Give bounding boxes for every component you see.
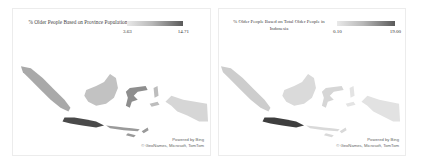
region-nusa-tenggara[interactable] bbox=[106, 125, 149, 137]
color-scale-legend: 3.63 14.71 bbox=[127, 21, 183, 37]
region-sumatra[interactable] bbox=[221, 66, 270, 111]
region-sulawesi[interactable] bbox=[126, 86, 148, 108]
color-scale-legend: 0.10 19.00 bbox=[337, 21, 395, 37]
region-java[interactable] bbox=[263, 118, 305, 128]
map-panel-province-population[interactable]: % Older People Based on Province Populat… bbox=[12, 8, 211, 156]
legend-gradient-bar bbox=[127, 21, 183, 26]
region-nusa-tenggara[interactable] bbox=[306, 125, 347, 137]
legend-max-value: 14.71 bbox=[178, 29, 189, 34]
region-papua[interactable] bbox=[361, 96, 400, 122]
attribution-copyright: © GeoNames, Microsoft, TomTom bbox=[141, 143, 204, 149]
region-papua[interactable] bbox=[165, 96, 208, 122]
region-maluku[interactable] bbox=[346, 86, 356, 107]
region-kalimantan[interactable] bbox=[84, 74, 118, 106]
region-sumatra[interactable] bbox=[21, 66, 70, 111]
map-title: % Older People Based on Total Older Peop… bbox=[225, 19, 333, 32]
legend-min-value: 0.10 bbox=[333, 29, 342, 34]
region-maluku[interactable] bbox=[150, 86, 160, 107]
region-java[interactable] bbox=[62, 118, 104, 128]
legend-gradient-bar bbox=[337, 21, 395, 26]
legend-max-value: 19.00 bbox=[390, 29, 401, 34]
region-kalimantan[interactable] bbox=[282, 74, 316, 106]
map-attribution: Powered by Bing © GeoNames, Microsoft, T… bbox=[141, 137, 204, 149]
map-title: % Older People Based on Province Populat… bbox=[27, 19, 129, 26]
region-sulawesi[interactable] bbox=[322, 86, 344, 108]
map-attribution: Powered by Bing © GeoNames, Microsoft, T… bbox=[336, 137, 399, 149]
legend-min-value: 3.63 bbox=[123, 29, 132, 34]
map-panel-total-older-people[interactable]: % Older People Based on Total Older Peop… bbox=[218, 8, 406, 156]
attribution-copyright: © GeoNames, Microsoft, TomTom bbox=[336, 143, 399, 149]
